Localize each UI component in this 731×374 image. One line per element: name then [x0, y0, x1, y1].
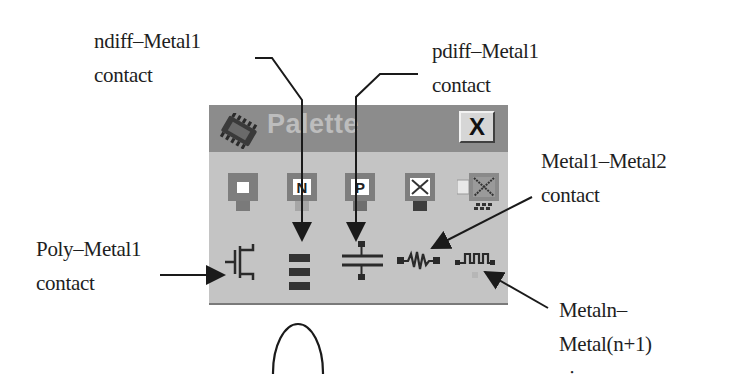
- complex-contact-highlight: [273, 324, 323, 374]
- callout-overlay: [0, 0, 731, 374]
- via-arrow: [485, 272, 548, 308]
- m1m2-arrow: [432, 197, 532, 248]
- ndiff-arrow: [255, 58, 302, 240]
- pdiff-arrow: [356, 74, 418, 240]
